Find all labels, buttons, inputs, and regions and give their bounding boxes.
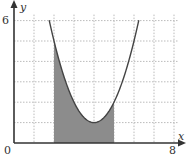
shaded-area <box>54 41 114 143</box>
y-axis-label: y <box>19 1 27 14</box>
x-max-tick-label: 8 <box>169 144 176 155</box>
y-axis-arrow-icon <box>11 0 18 8</box>
area-under-curve-chart: 0 8 6 x y <box>0 0 186 155</box>
y-max-tick-label: 6 <box>2 14 9 27</box>
x-axis-label: x <box>178 130 185 143</box>
origin-label: 0 <box>4 144 11 155</box>
